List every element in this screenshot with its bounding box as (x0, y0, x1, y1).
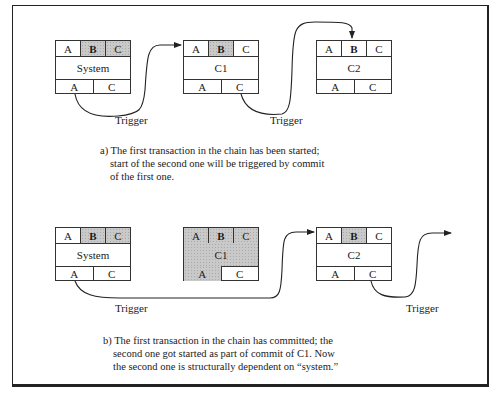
trigger-arrow-c1-to-c2 (241, 22, 352, 114)
panel-a-caption: a) The first transaction in the chain ha… (100, 144, 324, 183)
trigger-arrow-c2-outgoing (371, 233, 451, 297)
panel-b-trigger-label-1: Trigger (115, 302, 148, 314)
caption-line: of the first one. (100, 170, 324, 183)
trigger-arrow-system-to-c1 (75, 45, 181, 116)
panel-a-trigger-label-2: Trigger (270, 114, 303, 126)
panel-a-trigger-label-1: Trigger (115, 114, 148, 126)
caption-line: a) The first transaction in the chain ha… (100, 145, 319, 156)
caption-line: second one got started as part of commit… (103, 347, 338, 360)
caption-line: start of the second one will be triggere… (100, 157, 324, 170)
caption-line: the second one is structurally dependent… (103, 360, 338, 373)
panel-b-caption: b) The first transaction in the chain ha… (103, 334, 338, 373)
caption-line: b) The first transaction in the chain ha… (103, 335, 333, 346)
trigger-arrow-system-to-c2 (75, 232, 314, 298)
panel-b-trigger-label-2: Trigger (406, 302, 439, 314)
